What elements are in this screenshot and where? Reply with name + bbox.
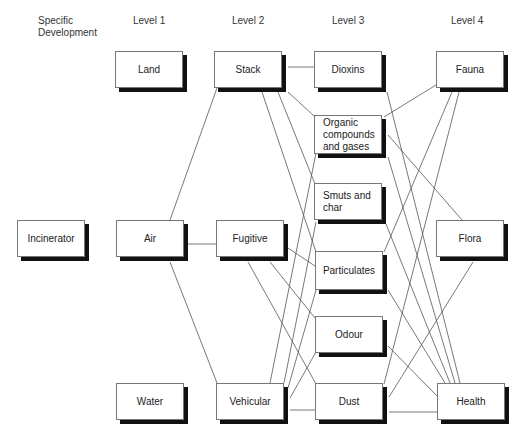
edge-vehicular-smuts xyxy=(284,222,316,383)
header-level-4: Level 4 xyxy=(451,15,483,27)
edge-fugitive-particulates xyxy=(288,248,315,266)
edge-air-vehicular xyxy=(170,262,217,383)
edge-organic-flora xyxy=(388,135,462,220)
node-air: Air xyxy=(116,220,184,257)
node-flora: Flora xyxy=(436,220,504,257)
node-fugitive: Fugitive xyxy=(216,220,284,257)
node-vehicular: Vehicular xyxy=(216,383,284,420)
node-odour: Odour xyxy=(315,316,383,353)
edge-vehicular-odour xyxy=(290,352,316,398)
node-organic-compounds: Organic compounds and gases xyxy=(314,115,382,154)
node-water: Water xyxy=(116,383,184,420)
node-land: Land xyxy=(115,51,183,88)
edge-organic-health xyxy=(388,157,455,383)
header-specific-development: Specific Development xyxy=(38,15,97,39)
edge-stack-smuts xyxy=(278,92,315,184)
node-particulates: Particulates xyxy=(315,251,383,290)
header-level-3: Level 3 xyxy=(332,15,364,27)
edge-air-stack xyxy=(170,88,217,220)
edge-stack-organic xyxy=(288,92,314,116)
node-incinerator: Incinerator xyxy=(17,220,85,257)
edge-dust-flora xyxy=(389,262,473,397)
node-dioxins: Dioxins xyxy=(314,51,382,88)
node-fauna: Fauna xyxy=(436,51,504,88)
edge-organic-fauna xyxy=(384,85,436,117)
node-health: Health xyxy=(437,383,505,420)
node-smuts-and-char: Smuts and char xyxy=(314,183,382,220)
header-level-1: Level 1 xyxy=(133,15,165,27)
edge-vehicular-particulates xyxy=(288,290,316,388)
node-dust: Dust xyxy=(315,383,383,420)
header-level-2: Level 2 xyxy=(232,15,264,27)
node-stack: Stack xyxy=(214,51,282,88)
edge-odour-health xyxy=(388,346,437,396)
edge-vehicular-organic xyxy=(270,153,316,383)
